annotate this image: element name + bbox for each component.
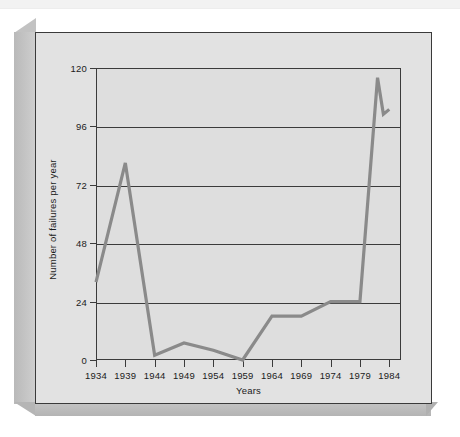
x-tick-label-1969: 1969: [290, 370, 312, 381]
x-tick-label-1954: 1954: [202, 370, 224, 381]
x-tick-1934: [96, 360, 97, 367]
x-tick-label-1959: 1959: [232, 370, 254, 381]
y-tick-label-72: 72: [76, 179, 87, 190]
slab-left-top-bevel: [14, 18, 36, 33]
x-tick-label-1949: 1949: [173, 370, 195, 381]
x-tick-label-1964: 1964: [261, 370, 283, 381]
y-tick-label-24: 24: [76, 296, 87, 307]
y-axis-title: Number of failures per year: [47, 120, 58, 320]
x-tick-1944: [155, 360, 156, 367]
x-tick-1954: [213, 360, 214, 367]
chart-panel: 024487296120 193419391944194919541959196…: [35, 32, 432, 404]
x-tick-label-1984: 1984: [378, 370, 400, 381]
x-tick-1969: [301, 360, 302, 367]
x-tick-1964: [272, 360, 273, 367]
slab-left-face: [14, 32, 36, 404]
x-tick-1974: [331, 360, 332, 367]
x-tick-1949: [184, 360, 185, 367]
slab-left-bottom-bevel: [14, 402, 36, 416]
x-tick-1984: [389, 360, 390, 367]
x-tick-label-1939: 1939: [114, 370, 136, 381]
x-tick-1979: [360, 360, 361, 367]
x-tick-label-1934: 1934: [85, 370, 107, 381]
chart-area: 024487296120 193419391944194919541959196…: [36, 33, 433, 405]
chart-figure-3d-slab: 024487296120 193419391944194919541959196…: [14, 18, 446, 422]
x-tick-label-1979: 1979: [349, 370, 371, 381]
x-tick-1939: [125, 360, 126, 367]
page-top-strip: [0, 0, 460, 9]
series-polyline: [96, 78, 389, 360]
y-tick-label-120: 120: [71, 63, 87, 74]
y-tick-label-48: 48: [76, 238, 87, 249]
x-tick-label-1944: 1944: [144, 370, 166, 381]
x-axis-title: Years: [96, 385, 401, 396]
y-tick-label-96: 96: [76, 121, 87, 132]
y-tick-label-0: 0: [82, 355, 87, 366]
x-tick-label-1974: 1974: [320, 370, 342, 381]
series-line-chart: [96, 68, 401, 360]
